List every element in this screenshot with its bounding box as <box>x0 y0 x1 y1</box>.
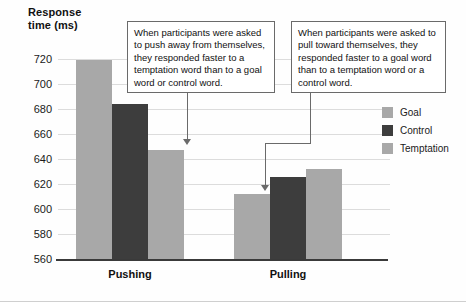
x-axis-label-pushing: Pushing <box>108 268 151 280</box>
y-axis-tick-label: 680 <box>6 103 52 115</box>
y-axis-tick-label: 720 <box>6 53 52 65</box>
legend-item-control: Control <box>382 122 466 138</box>
leader-line-pushing <box>187 93 188 139</box>
y-axis-tick-label: 660 <box>6 128 52 140</box>
legend-item-goal: Goal <box>382 104 466 120</box>
bar-pulling-temptation <box>306 169 342 259</box>
bar-pushing-temptation <box>148 150 184 259</box>
legend-swatch-goal <box>382 107 393 118</box>
bar-pushing-control <box>112 104 148 259</box>
arrowhead-pulling <box>261 185 269 191</box>
y-axis-tick-label: 560 <box>6 253 52 265</box>
leader-line-pulling-horizontal <box>265 143 311 144</box>
legend-label: Goal <box>400 107 421 118</box>
y-axis-tick-label: 640 <box>6 153 52 165</box>
x-axis-line-end <box>386 259 388 261</box>
arrowhead-pushing <box>183 139 191 145</box>
y-axis-tick-labels: 720700680660640620600580560 <box>4 0 52 302</box>
x-axis-line <box>56 259 386 261</box>
y-axis-tick-label: 600 <box>6 203 52 215</box>
x-axis-label-pulling: Pulling <box>270 268 307 280</box>
leader-line-pulling-drop <box>265 143 266 185</box>
bar-pulling-goal <box>234 194 270 259</box>
legend-swatch-temptation <box>382 143 393 154</box>
legend-label: Control <box>400 125 432 136</box>
legend: GoalControlTemptation <box>382 104 466 158</box>
y-axis-tick-label: 620 <box>6 178 52 190</box>
annotation-pushing: When participants were asked to push awa… <box>127 21 275 93</box>
chart-figure: Response time (ms) 720700680660640620600… <box>0 0 466 302</box>
annotation-pulling: When participants were asked to pull tow… <box>291 21 446 93</box>
y-axis-tick-label: 700 <box>6 78 52 90</box>
bar-pulling-control <box>270 177 306 260</box>
legend-swatch-control <box>382 125 393 136</box>
leader-line-pulling-vertical <box>310 93 311 143</box>
bar-pushing-goal <box>76 60 112 259</box>
legend-label: Temptation <box>400 143 449 154</box>
y-axis-tick-label: 580 <box>6 228 52 240</box>
legend-item-temptation: Temptation <box>382 140 466 156</box>
